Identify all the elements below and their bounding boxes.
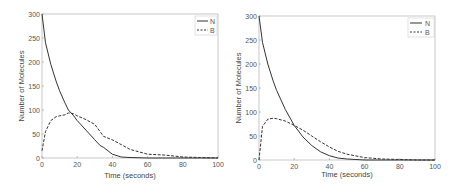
chart-svg: 050100150200250300 020406080100 N B Time… — [0, 0, 231, 187]
y-tick-label: 50 — [32, 131, 40, 138]
y-axis-label: Number of Molecules — [234, 52, 243, 123]
y-axis-label: Number of Molecules — [17, 50, 26, 121]
x-tick-label: 60 — [144, 161, 152, 168]
x-tick-label: 100 — [429, 163, 441, 170]
x-tick-label: 40 — [326, 163, 334, 170]
y-tick-label: 250 — [28, 35, 40, 42]
series-n-line — [42, 14, 218, 158]
series-n-line — [259, 16, 435, 160]
x-tick-label: 20 — [290, 163, 298, 170]
plot-area — [259, 16, 435, 160]
y-tick-label: 150 — [245, 85, 257, 92]
x-tick-label: 0 — [257, 163, 261, 170]
series-b-line — [259, 118, 435, 160]
legend-label-n: N — [210, 18, 215, 25]
stochastic-chart: 050100150200250300 020406080100 N B Time… — [0, 0, 231, 187]
x-axis-label: Time (seconds) — [104, 171, 156, 180]
legend: N B — [408, 18, 434, 37]
y-tick-label: 150 — [28, 83, 40, 90]
legend-label-n: N — [425, 20, 430, 27]
x-tick-label: 0 — [40, 161, 44, 168]
y-tick-label: 100 — [245, 109, 257, 116]
y-tick-label: 250 — [245, 37, 257, 44]
x-axis-label: Time (seconds) — [321, 170, 373, 179]
legend-label-b: B — [210, 27, 215, 34]
legend: N B — [195, 16, 217, 35]
y-tick-label: 50 — [249, 133, 257, 140]
x-tick-label: 40 — [109, 161, 117, 168]
legend-label-b: B — [425, 29, 430, 36]
y-tick-label: 200 — [28, 59, 40, 66]
x-tick-label: 60 — [361, 163, 369, 170]
x-tick-label: 80 — [396, 163, 404, 170]
x-tick-label: 20 — [73, 161, 81, 168]
chart-svg: 050100150200250300 020406080100 N B Time… — [233, 0, 463, 187]
y-tick-label: 300 — [28, 11, 40, 18]
y-tick-label: 200 — [245, 61, 257, 68]
y-tick-label: 300 — [245, 13, 257, 20]
deterministic-chart: 050100150200250300 020406080100 N B Time… — [233, 0, 463, 187]
x-tick-label: 100 — [212, 161, 224, 168]
x-tick-label: 80 — [179, 161, 187, 168]
plot-area — [42, 14, 218, 158]
y-tick-label: 100 — [28, 107, 40, 114]
series-b-line — [42, 113, 218, 158]
